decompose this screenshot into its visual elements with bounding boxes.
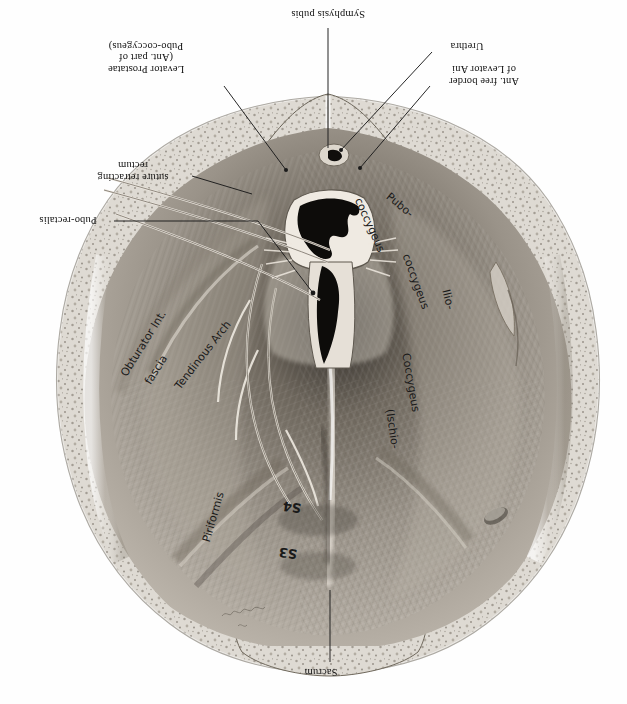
illustration-plate: Symphysis pubis Levator Prostatae (Ant. … bbox=[0, 0, 627, 704]
label-symphysis-pubis: Symphysis pubis bbox=[258, 8, 398, 20]
label-pubo-rectalis: Pubo-rectalis bbox=[24, 214, 112, 226]
anatomical-illustration bbox=[0, 0, 627, 704]
label-levator-prostatae: Levator Prostatae (Ant. part of Pubo-coc… bbox=[72, 40, 220, 75]
urethra-opening bbox=[319, 144, 349, 166]
label-ant-free-border-of-levator-ani: Ant. free border of Levator Ani bbox=[432, 64, 536, 87]
label-sacrum: Sacrum bbox=[288, 666, 354, 678]
label-suture-retracting-rectum: suture retracting rectum bbox=[78, 160, 188, 183]
label-urethra: Urethra bbox=[432, 40, 502, 52]
